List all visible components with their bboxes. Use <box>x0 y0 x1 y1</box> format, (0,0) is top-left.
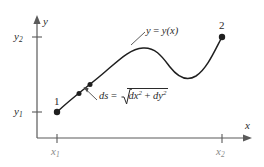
ds-lhs: ds <box>99 90 108 101</box>
curve-equation-label: y = y(x) <box>146 26 178 37</box>
x-axis-arrowhead <box>243 134 252 141</box>
x-axis-label: x <box>245 120 250 131</box>
y-axis-arrowhead <box>33 15 40 24</box>
x1-subscript: 1 <box>56 150 60 159</box>
y1-subscript: 1 <box>19 110 23 119</box>
axes-group <box>37 21 246 138</box>
x-tick-label-x2: x2 <box>216 146 225 158</box>
ds-marker-dot-start <box>77 91 82 96</box>
y-tick-label-y2: y2 <box>14 31 23 43</box>
y-tick-label-y1: y1 <box>14 106 23 118</box>
curve-label-leader-line <box>131 32 145 45</box>
point-label-1: 1 <box>54 96 60 107</box>
ds-equals: = <box>108 90 119 101</box>
ds-radical: dx2 + dy2 <box>127 88 169 101</box>
x2-subscript: 2 <box>221 150 225 159</box>
endpoint-dot-2 <box>219 34 225 40</box>
arc-length-annotation: ds = dx2 + dy2 <box>99 88 168 101</box>
endpoint-dot-1 <box>54 109 60 115</box>
x-tick-label-x1: x1 <box>51 146 60 158</box>
arc-length-figure: y x y2 y1 x1 x2 1 2 y = y(x) ds = dx2 + … <box>0 0 264 167</box>
curve-equals: = <box>151 25 162 36</box>
ds-term2-exponent: 2 <box>163 89 166 96</box>
curve-rhs-arg: (x) <box>167 25 179 36</box>
y-axis-label: y <box>43 16 48 27</box>
ds-term2-base: dy <box>153 90 163 101</box>
ds-marker-dot-end <box>88 82 93 87</box>
ds-plus: + <box>142 90 153 101</box>
radical-sign-icon <box>121 88 132 105</box>
point-label-2: 2 <box>219 20 225 31</box>
y2-subscript: 2 <box>19 35 23 44</box>
